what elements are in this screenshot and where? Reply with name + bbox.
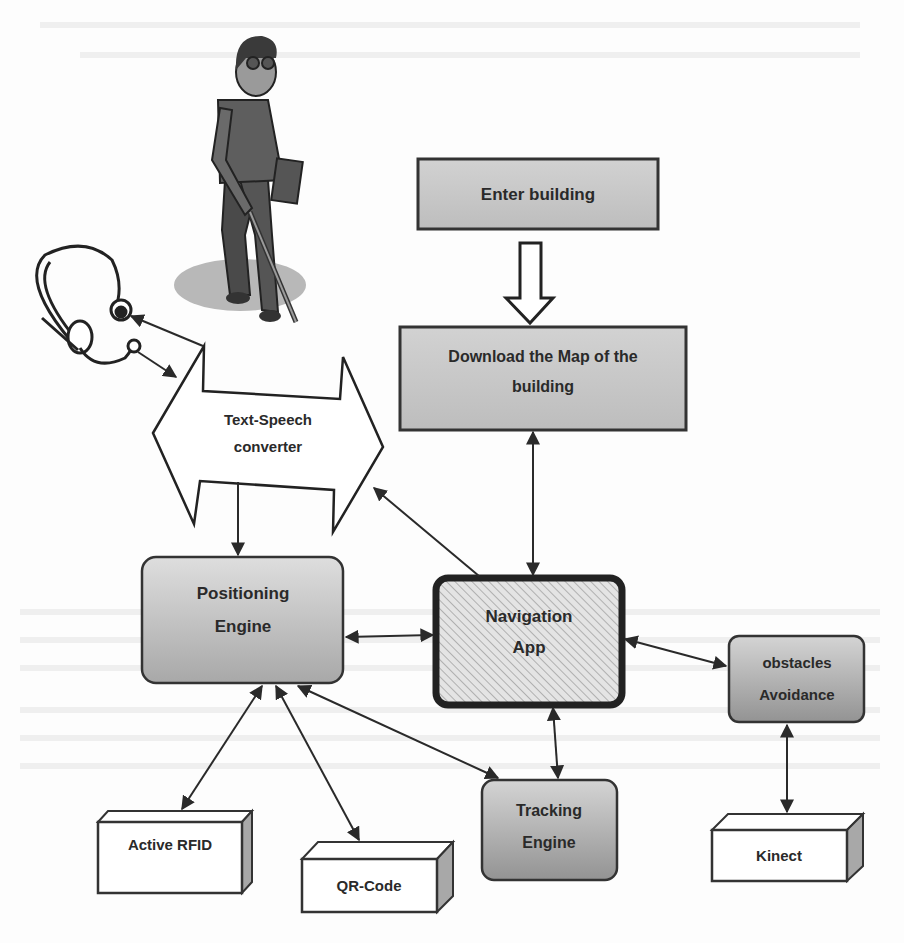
positioning-engine-label-line1: Positioning bbox=[197, 584, 290, 603]
download-map-label-line1: Download the Map of the bbox=[448, 348, 637, 365]
diagram-svg: Enter building Download the Map of the b… bbox=[0, 0, 904, 943]
hollow-down-arrow-icon bbox=[506, 243, 553, 323]
positioning-engine-box[interactable]: Positioning Engine bbox=[142, 557, 343, 683]
qr-code-label: QR-Code bbox=[337, 877, 402, 894]
enter-building-box[interactable]: Enter building bbox=[418, 159, 658, 229]
headset-icon bbox=[37, 246, 140, 363]
obstacles-avoidance-label-line1: obstacles bbox=[762, 654, 831, 671]
obstacles-avoidance-box[interactable]: obstacles Avoidance bbox=[729, 636, 864, 722]
diagram-canvas: Enter building Download the Map of the b… bbox=[0, 0, 904, 943]
qr-code-box[interactable]: QR-Code bbox=[302, 842, 453, 912]
enter-building-label: Enter building bbox=[481, 185, 595, 204]
edge-mic-to-converter bbox=[138, 352, 176, 377]
kinect-box[interactable]: Kinect bbox=[712, 814, 863, 881]
text-speech-converter-shape[interactable]: Text-Speech converter bbox=[153, 346, 383, 532]
edge-positioning-rfid bbox=[182, 686, 262, 809]
navigation-app-label-line1: Navigation bbox=[486, 607, 573, 626]
edge-navigation-obstacles bbox=[625, 639, 726, 666]
active-rfid-box[interactable]: Active RFID bbox=[98, 811, 252, 893]
edge-navigation-to-converter bbox=[374, 488, 479, 576]
navigation-app-label-line2: App bbox=[512, 638, 545, 657]
kinect-label: Kinect bbox=[756, 847, 802, 864]
tracking-engine-label-line1: Tracking bbox=[516, 802, 582, 819]
text-speech-label-line1: Text-Speech bbox=[224, 411, 312, 428]
tracking-engine-box[interactable]: Tracking Engine bbox=[482, 780, 617, 880]
download-map-label-line2: building bbox=[512, 378, 574, 395]
positioning-engine-label-line2: Engine bbox=[215, 617, 272, 636]
obstacles-avoidance-label-line2: Avoidance bbox=[759, 686, 834, 703]
download-map-box[interactable]: Download the Map of the building bbox=[400, 327, 686, 430]
edge-positioning-navigation bbox=[346, 635, 433, 637]
navigation-app-box[interactable]: Navigation App bbox=[436, 578, 622, 705]
active-rfid-label: Active RFID bbox=[128, 836, 212, 853]
text-speech-label-line2: converter bbox=[234, 438, 303, 455]
blind-person-icon bbox=[174, 36, 306, 322]
tracking-engine-label-line2: Engine bbox=[522, 834, 575, 851]
edge-converter-to-headset bbox=[131, 316, 203, 346]
